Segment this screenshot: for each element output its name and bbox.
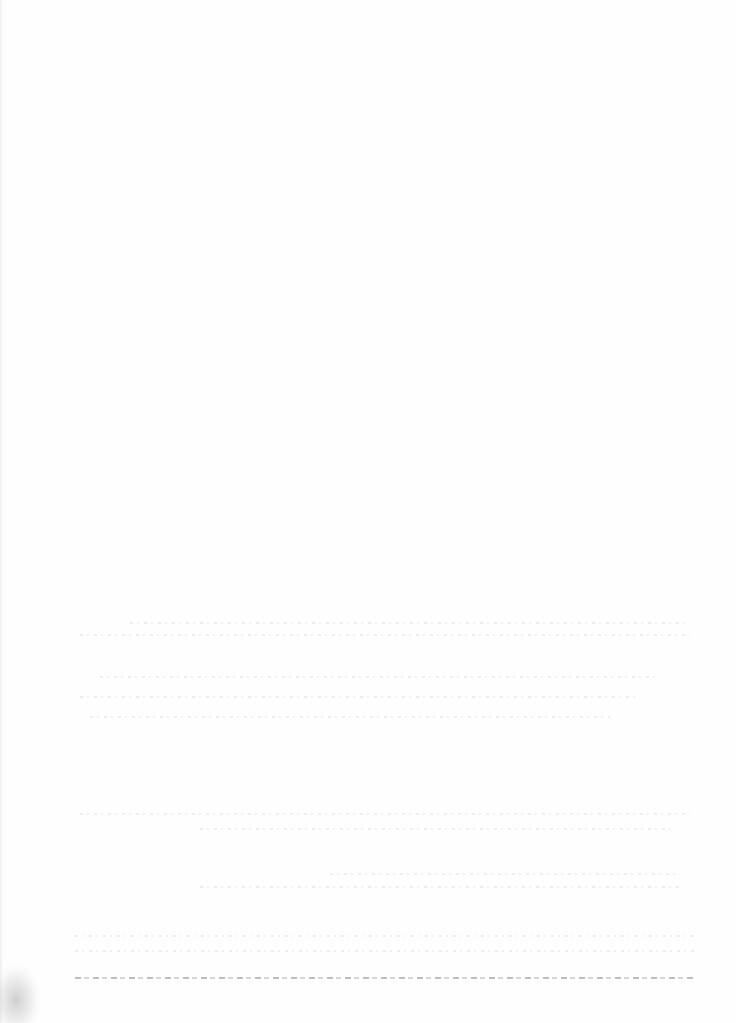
faint-bleedthrough-line [330, 873, 680, 875]
blank-scanned-page [0, 0, 736, 1023]
faint-bleedthrough-line [80, 634, 690, 636]
faint-bleedthrough-line [200, 828, 670, 830]
faint-bleedthrough-line [200, 886, 680, 888]
faint-bleedthrough-line [75, 950, 695, 952]
faint-horizontal-rule [75, 977, 695, 979]
faint-bleedthrough-line [75, 935, 695, 937]
faint-bleedthrough-line [90, 716, 610, 718]
corner-smudge [0, 965, 40, 1023]
faint-bleedthrough-line [130, 622, 690, 624]
faint-bleedthrough-line [80, 813, 690, 815]
page-edge-shadow [0, 0, 3, 1023]
faint-bleedthrough-line [80, 696, 640, 698]
faint-bleedthrough-line [100, 676, 660, 678]
